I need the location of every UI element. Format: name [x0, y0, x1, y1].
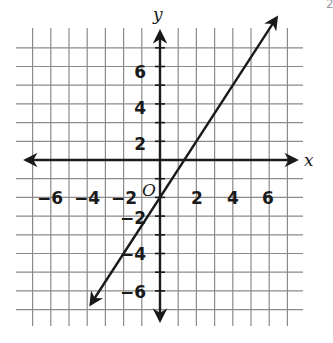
x-tick-label: 2: [191, 188, 203, 208]
y-tick-label: 6: [134, 62, 146, 82]
y-tick-label: −4: [120, 244, 146, 264]
corner-mark: 2: [326, 0, 333, 11]
y-tick-label: −2: [120, 208, 146, 228]
x-tick-label: 6: [262, 188, 274, 208]
x-tick-label: −2: [111, 188, 137, 208]
origin-label: O: [142, 180, 156, 200]
y-axis-label: y: [152, 4, 163, 24]
x-tick-label: −6: [37, 188, 63, 208]
y-tick-label: 2: [134, 134, 146, 154]
x-axis-label: x: [304, 150, 314, 170]
coordinate-plane: y x O 2 −6−4−2246 642−2−4−6: [0, 0, 333, 343]
y-tick-label: 4: [134, 98, 146, 118]
x-tick-label: −4: [74, 188, 100, 208]
y-tick-label: −6: [120, 282, 146, 302]
x-tick-label: 4: [227, 188, 239, 208]
